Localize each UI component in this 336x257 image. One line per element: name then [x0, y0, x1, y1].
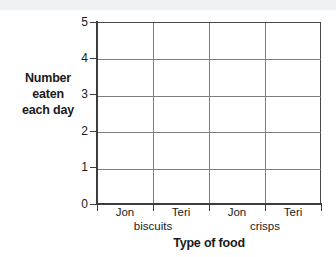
y-axis-tick-1 [90, 167, 97, 168]
y-axis-title-line-1: Number [6, 70, 90, 86]
y-axis-line [96, 21, 98, 205]
x-axis-group-label-biscuits: biscuits [97, 220, 209, 233]
x-axis-category-label-1: Teri [153, 206, 209, 219]
gridline-vertical-3 [265, 23, 266, 205]
y-axis-label-0: 0 [72, 198, 88, 210]
x-axis-tick-4 [321, 204, 322, 211]
y-axis-tick-2 [90, 131, 97, 132]
gridline-vertical-2 [209, 23, 210, 205]
y-axis-tick-0 [90, 204, 97, 205]
chart-page: Number eaten each day 5 4 3 2 1 0 Jon Te… [0, 0, 336, 257]
y-axis-tick-4 [90, 58, 97, 59]
scan-band [0, 0, 336, 10]
x-axis-title: Type of food [97, 236, 321, 250]
y-axis-title-line-3: each day [6, 102, 90, 118]
y-axis-label-4: 4 [72, 52, 88, 64]
gridline-vertical-1 [153, 23, 154, 205]
y-axis-label-1: 1 [72, 161, 88, 173]
y-axis-tick-5 [90, 22, 97, 23]
x-axis-category-label-0: Jon [97, 206, 153, 219]
x-axis-group-label-crisps: crisps [209, 220, 321, 233]
y-axis-tick-3 [90, 94, 97, 95]
x-axis-category-label-3: Teri [265, 206, 321, 219]
x-axis-category-label-2: Jon [209, 206, 265, 219]
y-axis-label-5: 5 [72, 16, 88, 28]
y-axis-label-3: 3 [72, 88, 88, 100]
plot-area [97, 22, 321, 204]
y-axis-label-2: 2 [72, 125, 88, 137]
